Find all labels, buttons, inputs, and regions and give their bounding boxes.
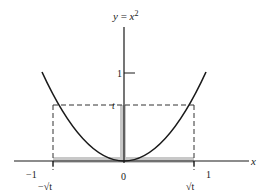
t-label: t bbox=[112, 100, 115, 111]
parabola-figure: y = x2 1 t x −1 −√t 0 √t 1 bbox=[0, 0, 269, 196]
curve-title: y = x2 bbox=[112, 9, 139, 22]
x-tick-label-sqrt-t: √t bbox=[186, 181, 194, 192]
figure-canvas: y = x2 1 t x −1 −√t 0 √t 1 bbox=[0, 0, 269, 196]
shaded-y-interval bbox=[120, 105, 126, 161]
x-tick-label-one: 1 bbox=[206, 169, 211, 180]
x-tick-label-neg-one: −1 bbox=[26, 169, 37, 180]
x-tick-label-zero: 0 bbox=[121, 171, 126, 182]
x-axis-label: x bbox=[250, 155, 256, 167]
y-tick-label-one: 1 bbox=[117, 68, 122, 79]
x-tick-label-neg-sqrt-t: −√t bbox=[38, 181, 52, 192]
